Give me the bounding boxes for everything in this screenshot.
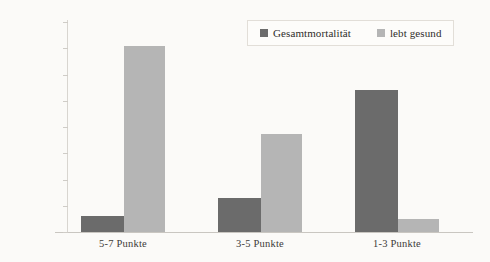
y-tick-mark	[63, 232, 68, 233]
x-axis-category-label: 3-5 Punkte	[196, 238, 324, 249]
legend-entry-lebt-gesund: lebt gesund	[377, 27, 442, 39]
x-axis-category-label: 5-7 Punkte	[59, 238, 187, 249]
y-tick-mark	[63, 48, 68, 49]
chart-legend: Gesamtmortalität lebt gesund	[247, 20, 454, 46]
y-tick-mark	[63, 206, 68, 207]
y-tick-mark	[63, 180, 68, 181]
y-tick-mark	[63, 127, 68, 128]
bar-lebt-gesund	[261, 134, 302, 232]
y-tick-mark	[63, 153, 68, 154]
legend-swatch-icon	[260, 29, 268, 37]
legend-entry-gesamtmortalitaet: Gesamtmortalität	[260, 27, 351, 39]
bar-gesamtmortalitaet	[218, 198, 261, 232]
bar-gesamtmortalitaet	[355, 90, 398, 232]
bar-chart-plot-area: 80%70%60%50%40%30%20%10%0% 5-7 Punkte3-5…	[0, 0, 490, 262]
x-axis-line	[55, 232, 473, 233]
bar-lebt-gesund	[398, 219, 439, 232]
legend-swatch-icon	[377, 29, 385, 37]
y-tick-mark	[63, 101, 68, 102]
y-tick-mark	[63, 22, 68, 23]
chart-screenshot: 80%70%60%50%40%30%20%10%0% 5-7 Punkte3-5…	[0, 0, 490, 262]
x-axis-category-label: 1-3 Punkte	[333, 238, 461, 249]
bar-gesamtmortalitaet	[81, 216, 124, 232]
bar-lebt-gesund	[124, 46, 165, 232]
y-tick-mark	[63, 75, 68, 76]
legend-label: lebt gesund	[390, 27, 442, 39]
legend-label: Gesamtmortalität	[273, 27, 351, 39]
